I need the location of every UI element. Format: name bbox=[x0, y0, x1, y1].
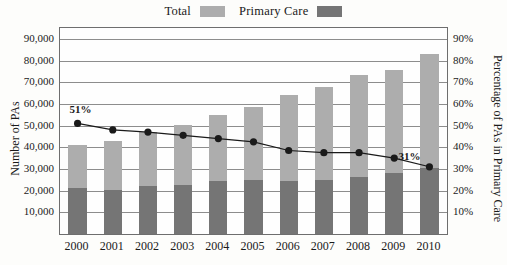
percentage-marker-2007[interactable] bbox=[320, 149, 327, 156]
legend-label-primary-care: Primary Care bbox=[239, 4, 308, 19]
y2-tick-90pct: 90% bbox=[453, 32, 493, 44]
y2-tick-50pct: 50% bbox=[453, 119, 493, 131]
percentage-marker-2003[interactable] bbox=[180, 132, 187, 139]
y2-tick-20pct: 20% bbox=[453, 184, 493, 196]
y2-tick-70pct: 70% bbox=[453, 75, 493, 87]
x-tick-2006: 2006 bbox=[276, 239, 300, 254]
percentage-marker-2006[interactable] bbox=[285, 147, 292, 154]
y-tick-10000: 10,000 bbox=[0, 205, 54, 217]
x-tick-2005: 2005 bbox=[241, 239, 265, 254]
chart-container: Total Primary Care Number of PAs Percent… bbox=[0, 0, 507, 265]
percentage-line-series bbox=[60, 28, 447, 234]
y-tick-70000: 70,000 bbox=[0, 75, 54, 87]
x-tick-2009: 2009 bbox=[381, 239, 405, 254]
legend-swatch-primary-care bbox=[317, 6, 342, 17]
y-tick-80000: 80,000 bbox=[0, 54, 54, 66]
percentage-marker-2002[interactable] bbox=[144, 128, 151, 135]
x-tick-2003: 2003 bbox=[170, 239, 194, 254]
y2-tick-10pct: 10% bbox=[453, 205, 493, 217]
y-tick-50000: 50,000 bbox=[0, 119, 54, 131]
x-tick-2008: 2008 bbox=[346, 239, 370, 254]
percentage-marker-2005[interactable] bbox=[250, 138, 257, 145]
legend-swatch-total bbox=[200, 6, 225, 17]
x-tick-2002: 2002 bbox=[135, 239, 159, 254]
y-tick-30000: 30,000 bbox=[0, 162, 54, 174]
x-tick-2000: 2000 bbox=[65, 239, 89, 254]
point-label-2000: 51% bbox=[70, 103, 92, 115]
chart-legend: Total Primary Care bbox=[0, 2, 507, 20]
y-tick-40000: 40,000 bbox=[0, 140, 54, 152]
y-tick-20000: 20,000 bbox=[0, 184, 54, 196]
percentage-marker-2004[interactable] bbox=[215, 135, 222, 142]
plot-area: 51%31% bbox=[59, 27, 448, 235]
legend-entry-total: Total bbox=[165, 4, 226, 19]
legend-label-total: Total bbox=[165, 4, 192, 19]
y-tick-90000: 90,000 bbox=[0, 32, 54, 44]
x-tick-2007: 2007 bbox=[311, 239, 335, 254]
percentage-marker-2001[interactable] bbox=[109, 126, 116, 133]
x-tick-2004: 2004 bbox=[205, 239, 229, 254]
y-tick-60000: 60,000 bbox=[0, 97, 54, 109]
percentage-marker-2000[interactable] bbox=[74, 120, 81, 127]
x-tick-2010: 2010 bbox=[416, 239, 440, 254]
y2-tick-60pct: 60% bbox=[453, 97, 493, 109]
y2-tick-80pct: 80% bbox=[453, 54, 493, 66]
y2-tick-30pct: 30% bbox=[453, 162, 493, 174]
percentage-marker-2009[interactable] bbox=[391, 155, 398, 162]
point-label-2010: 31% bbox=[398, 150, 420, 162]
percentage-marker-2008[interactable] bbox=[355, 149, 362, 156]
legend-entry-primary-care: Primary Care bbox=[239, 4, 342, 19]
x-tick-2001: 2001 bbox=[100, 239, 124, 254]
y2-tick-40pct: 40% bbox=[453, 140, 493, 152]
percentage-marker-2010[interactable] bbox=[426, 163, 433, 170]
